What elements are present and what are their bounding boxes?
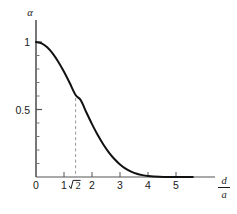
x-axis-tick-label: 2	[89, 179, 95, 191]
x-axis-tick-label: 5	[173, 179, 179, 191]
x-axis-tick-label: 1	[61, 179, 67, 191]
x-axis-label-numerator: d	[221, 175, 227, 186]
y-axis-tick-label: 1	[24, 36, 30, 48]
x-axis-tick-label: 4	[145, 179, 151, 191]
y-axis-label: α	[27, 7, 33, 18]
x-axis-tick-label: 3	[117, 179, 123, 191]
sqrt2-radicand: 2	[75, 180, 80, 191]
x-axis-label-denominator: a	[221, 189, 226, 200]
alpha-vs-d-over-a-chart: 0.51 012345 α d a 2	[0, 0, 237, 214]
y-axis-tick-label: 0.5	[15, 104, 30, 116]
x-axis-tick-label: 0	[33, 179, 39, 191]
chart-figure: 0.51 012345 α d a 2	[0, 0, 237, 214]
